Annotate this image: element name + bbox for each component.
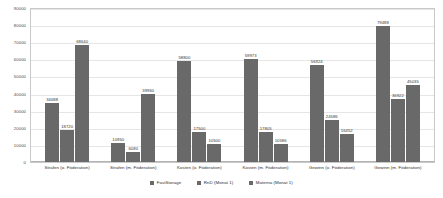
y-axis-tick-label: 20000 xyxy=(14,125,26,130)
y-axis-tick-label: 70000 xyxy=(14,40,26,45)
x-axis-category-label: Kosten (m. Föderation) xyxy=(233,165,299,170)
bar-item[interactable]: 68640 xyxy=(75,8,89,162)
bar[interactable] xyxy=(177,61,191,162)
bar-value-label: 34688 xyxy=(46,97,58,102)
bar[interactable] xyxy=(207,144,221,162)
bar-value-label: 18720 xyxy=(61,124,73,129)
legend-label: Materna (Monat 1) xyxy=(256,180,293,185)
legend-label: RnD (Monat 1) xyxy=(204,180,233,185)
bar-value-label: 79488 xyxy=(377,20,389,25)
bar-item[interactable]: 16452 xyxy=(340,8,354,162)
bar-value-label: 24586 xyxy=(326,114,338,119)
bar-value-label: 58800 xyxy=(178,55,190,60)
bar[interactable] xyxy=(310,65,324,162)
bar-item[interactable]: 6080 xyxy=(126,8,140,162)
x-axis-category-label: Gewinn (o. Föderation) xyxy=(299,165,365,170)
bars-container: 3468818720686401095060803996058800175001… xyxy=(30,8,435,162)
bar-item[interactable]: 17500 xyxy=(192,8,206,162)
bar-value-label: 36922 xyxy=(392,93,404,98)
legend-item[interactable]: RnD (Monat 1) xyxy=(197,180,233,185)
bar[interactable] xyxy=(126,152,140,162)
bar-group: 599731780510586 xyxy=(233,8,299,162)
bar-item[interactable]: 10586 xyxy=(274,8,288,162)
bar-value-label: 6080 xyxy=(128,146,138,151)
bar-item[interactable]: 17805 xyxy=(259,8,273,162)
bar-group: 346881872068640 xyxy=(34,8,100,162)
bar[interactable] xyxy=(141,94,155,162)
bar-group: 588001750010500 xyxy=(166,8,232,162)
y-axis-tick-label: 50000 xyxy=(14,74,26,79)
legend-item[interactable]: Materna (Monat 1) xyxy=(249,180,292,185)
x-axis-category-label: Strafen (m. Föderation) xyxy=(100,165,166,170)
bar-chart: 0100002000030000400005000060000700008000… xyxy=(0,0,443,198)
bar-item[interactable]: 39960 xyxy=(141,8,155,162)
bar-item[interactable]: 34688 xyxy=(45,8,59,162)
bar[interactable] xyxy=(45,103,59,162)
y-axis-tick-label: 30000 xyxy=(14,108,26,113)
y-axis-tick-label: 80000 xyxy=(14,23,26,28)
bar[interactable] xyxy=(376,26,390,162)
bar-value-label: 10950 xyxy=(112,137,124,142)
bar-item[interactable]: 10950 xyxy=(111,8,125,162)
y-axis-tick-label: 0 xyxy=(24,160,26,165)
bar-value-label: 59973 xyxy=(245,53,257,58)
bar-item[interactable]: 18720 xyxy=(60,8,74,162)
bar-item[interactable]: 45035 xyxy=(406,8,420,162)
bar-value-label: 39960 xyxy=(142,88,154,93)
bar[interactable] xyxy=(111,143,125,162)
y-axis-tick-label: 10000 xyxy=(14,142,26,147)
x-axis-category-label: Kosten (o. Föderation) xyxy=(166,165,232,170)
bar-item[interactable]: 10500 xyxy=(207,8,221,162)
bar-value-label: 56924 xyxy=(311,59,323,64)
bar[interactable] xyxy=(60,130,74,162)
y-axis-tick-label: 60000 xyxy=(14,57,26,62)
bar[interactable] xyxy=(244,59,258,162)
bar-value-label: 68640 xyxy=(76,39,88,44)
bar-item[interactable]: 24586 xyxy=(325,8,339,162)
bar-item[interactable]: 36922 xyxy=(391,8,405,162)
legend-label: FastStorage xyxy=(157,180,181,185)
bar-item[interactable]: 56924 xyxy=(310,8,324,162)
bar-item[interactable]: 58800 xyxy=(177,8,191,162)
bar-value-label: 45035 xyxy=(407,79,419,84)
bar[interactable] xyxy=(75,45,89,162)
y-axis: 0100002000030000400005000060000700008000… xyxy=(0,8,28,163)
bar-value-label: 17805 xyxy=(260,126,272,131)
bar-item[interactable]: 79488 xyxy=(376,8,390,162)
bar-value-label: 10586 xyxy=(275,138,287,143)
chart-legend: FastStorageRnD (Monat 1)Materna (Monat 1… xyxy=(0,180,443,185)
legend-item[interactable]: FastStorage xyxy=(150,180,181,185)
x-axis-category-label: Gewinn (m. Föderation) xyxy=(365,165,431,170)
bar[interactable] xyxy=(406,85,420,162)
bar-value-label: 16452 xyxy=(341,128,353,133)
x-axis-category-labels: Strafen (o. Föderation)Strafen (m. Föder… xyxy=(30,165,435,170)
bar[interactable] xyxy=(325,120,339,162)
bar[interactable] xyxy=(340,134,354,162)
bar-group: 794883692245035 xyxy=(365,8,431,162)
x-axis-category-label: Strafen (o. Föderation) xyxy=(34,165,100,170)
legend-swatch-icon xyxy=(150,181,154,185)
y-axis-tick-label: 40000 xyxy=(14,91,26,96)
bar[interactable] xyxy=(391,99,405,162)
bar-value-label: 17500 xyxy=(193,126,205,131)
bar-value-label: 10500 xyxy=(208,138,220,143)
y-axis-tick-label: 90000 xyxy=(14,6,26,11)
bar[interactable] xyxy=(192,132,206,162)
legend-swatch-icon xyxy=(249,181,253,185)
bar-item[interactable]: 59973 xyxy=(244,8,258,162)
bar[interactable] xyxy=(259,132,273,162)
bar-group: 569242458616452 xyxy=(299,8,365,162)
bar[interactable] xyxy=(274,144,288,162)
legend-swatch-icon xyxy=(197,181,201,185)
bar-group: 10950608039960 xyxy=(100,8,166,162)
